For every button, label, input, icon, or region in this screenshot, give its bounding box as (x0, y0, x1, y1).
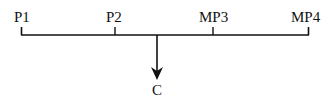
label-p1: P1 (14, 9, 30, 25)
label-p2: P2 (106, 9, 122, 25)
diagram-canvas: P1 P2 MP3 MP4 C (0, 0, 336, 98)
label-c: C (152, 82, 162, 98)
label-mp4: MP4 (291, 9, 321, 25)
label-mp3: MP3 (199, 9, 228, 25)
